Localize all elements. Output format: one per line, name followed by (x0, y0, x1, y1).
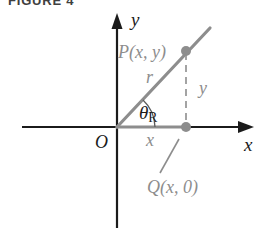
point-q-label: Q(x, 0) (147, 178, 198, 196)
point-q-marker (181, 122, 191, 132)
leg-x-label: x (146, 131, 154, 149)
theta-subscript: R (148, 110, 157, 125)
y-axis-label: y (131, 10, 139, 29)
point-p-label: P(x, y) (118, 43, 166, 61)
x-axis-label: x (244, 135, 252, 154)
figure-container: FIGURE 4 y x O P(x, y) r θR x y Q(x, 0 (0, 0, 267, 235)
point-p-marker (181, 46, 191, 56)
radius-label: r (146, 68, 153, 86)
x-axis-arrowhead (238, 121, 254, 133)
reference-angle-label: θR (139, 103, 157, 125)
y-axis-arrowhead (112, 13, 123, 29)
q-leader-line (160, 139, 179, 173)
coordinate-diagram (0, 0, 267, 235)
theta-symbol: θ (139, 102, 148, 123)
origin-label: O (95, 133, 108, 151)
leg-y-label: y (199, 79, 207, 97)
